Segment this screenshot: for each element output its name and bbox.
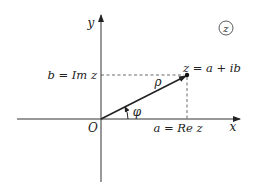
point-z-label: z = a + ib	[182, 61, 241, 75]
angle-arc-icon	[125, 107, 128, 119]
origin-label: O	[88, 121, 98, 135]
y-axis-label: y	[87, 16, 95, 30]
imag-part-label: b = Im z	[48, 68, 98, 82]
x-axis-label: x	[230, 120, 237, 134]
real-part-label: a = Re z	[154, 121, 204, 135]
complex-plane-diagram: z y x O z = a + ib b = Im z a = Re z ρ φ	[0, 0, 254, 192]
vector-rho	[101, 76, 186, 119]
plane-label: z	[222, 23, 229, 34]
modulus-label: ρ	[153, 75, 161, 89]
angle-label: φ	[133, 105, 142, 119]
